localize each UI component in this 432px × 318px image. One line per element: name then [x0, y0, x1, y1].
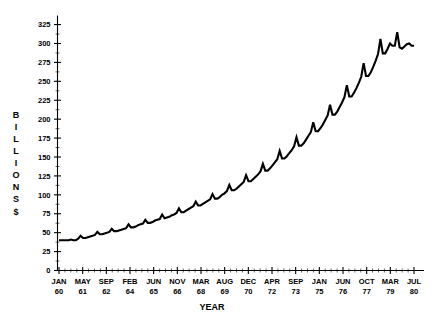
axis-lines: [58, 16, 425, 271]
y-tick-label: 125: [38, 172, 51, 181]
x-tick-label-month: JAN: [312, 277, 327, 286]
y-tick-label: 325: [38, 20, 51, 29]
x-tick-label-year: 65: [149, 287, 157, 296]
y-tick-label: 275: [38, 58, 51, 67]
x-tick-label-month: SEP: [99, 277, 114, 286]
y-axis-label-letter: S: [13, 194, 19, 204]
y-tick-label: 200: [38, 115, 51, 124]
y-axis-label-letter: $: [13, 207, 18, 217]
chart-page: B I L L I O N S $ 0255075100125150175200…: [0, 0, 432, 318]
y-tick-label: 0: [46, 266, 50, 275]
x-tick-label-month: APR: [264, 277, 280, 286]
y-axis-label-letter: N: [13, 182, 20, 192]
x-tick-label-year: 80: [410, 287, 418, 296]
line-chart: B I L L I O N S $ 0255075100125150175200…: [0, 0, 432, 318]
x-axis: JAN60MAY61SEP62FEB64JUN65NOV66MAR68AUG69…: [51, 267, 421, 296]
x-tick-label-year: 69: [220, 287, 228, 296]
x-tick-label-year: 75: [315, 287, 323, 296]
x-tick-label-year: 66: [173, 287, 181, 296]
y-tick-label: 175: [38, 134, 51, 143]
x-tick-label-month: AUG: [216, 277, 233, 286]
x-tick-label-year: 62: [102, 287, 110, 296]
y-axis-label-group: B I L L I O N S $: [12, 110, 19, 217]
x-tick-label-month: JUN: [335, 277, 350, 286]
x-tick-label-year: 77: [362, 287, 370, 296]
x-tick-label-month: DEC: [240, 277, 256, 286]
x-tick-label-year: 72: [268, 287, 276, 296]
x-tick-label-year: 79: [386, 287, 394, 296]
x-tick-label-month: FEB: [123, 277, 139, 286]
y-tick-label: 150: [38, 153, 51, 162]
x-tick-label-year: 76: [339, 287, 347, 296]
y-axis-label-letter: L: [13, 134, 19, 144]
y-tick-label: 25: [42, 247, 50, 256]
y-axis-label-letter: I: [15, 158, 18, 168]
y-tick-label: 75: [42, 209, 50, 218]
y-tick-label: 300: [38, 39, 51, 48]
y-axis-label-letter: I: [15, 122, 18, 132]
y-axis-label-letter: O: [12, 170, 19, 180]
y-tick-label: 50: [42, 228, 50, 237]
x-tick-label-month: JAN: [51, 277, 66, 286]
y-axis-label-letter: B: [13, 110, 20, 120]
x-tick-label-month: NOV: [169, 277, 185, 286]
y-axis: 0255075100125150175200225250275300325: [38, 16, 424, 276]
x-tick-label-month: MAY: [75, 277, 91, 286]
x-tick-label-month: MAR: [382, 277, 400, 286]
x-tick-label-year: 73: [291, 287, 299, 296]
data-series-line: [59, 32, 414, 240]
x-tick-label-year: 61: [78, 287, 86, 296]
x-tick-label-year: 70: [244, 287, 252, 296]
x-axis-title: YEAR: [199, 302, 225, 312]
y-tick-label: 100: [38, 191, 51, 200]
x-tick-label-year: 64: [126, 287, 135, 296]
x-tick-label-month: JUL: [407, 277, 422, 286]
y-tick-label: 225: [38, 96, 51, 105]
y-axis-label-letter: L: [13, 146, 19, 156]
x-tick-label-month: JUN: [146, 277, 161, 286]
x-tick-label-month: MAR: [192, 277, 210, 286]
x-tick-label-month: OCT: [359, 277, 375, 286]
x-tick-label-year: 68: [197, 287, 205, 296]
y-tick-label: 250: [38, 77, 51, 86]
x-tick-label-year: 60: [55, 287, 63, 296]
x-tick-label-month: SEP: [288, 277, 303, 286]
